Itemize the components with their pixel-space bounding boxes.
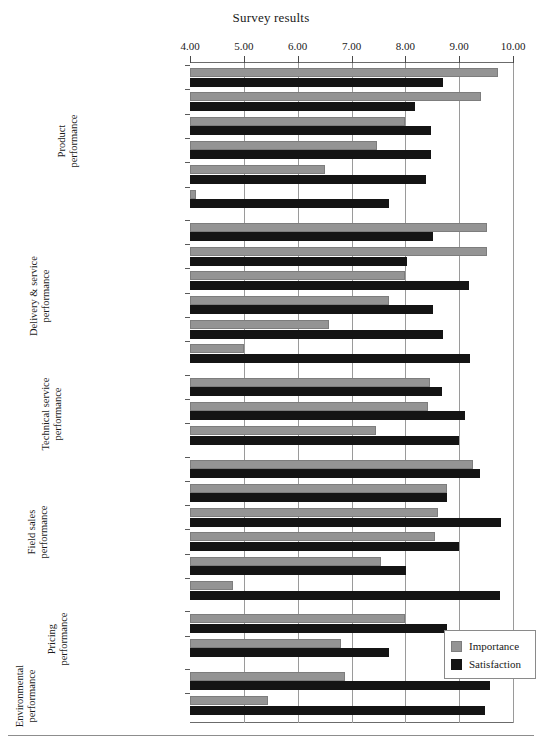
category-tick: [185, 162, 190, 163]
bar-satisfaction: [190, 126, 431, 135]
chart-row: [190, 114, 513, 138]
x-tick-label: 7.00: [342, 40, 361, 52]
bar-importance: [190, 460, 473, 469]
x-tick-mark: [190, 56, 191, 63]
bar-satisfaction: [190, 387, 442, 396]
chart-row: [190, 317, 513, 341]
bar-importance: [190, 696, 268, 705]
bar-importance: [190, 402, 428, 411]
x-tick-label: 5.00: [234, 40, 253, 52]
category-tick: [185, 554, 190, 555]
group-label: Pricing performance: [46, 564, 70, 714]
bar-satisfaction: [190, 330, 443, 339]
x-tick-label: 9.00: [450, 40, 469, 52]
bar-satisfaction: [190, 706, 485, 715]
bar-importance: [190, 639, 341, 648]
bar-importance: [190, 581, 233, 590]
x-tick-label: 4.00: [180, 40, 199, 52]
chart-row: [190, 162, 513, 186]
category-tick: [185, 423, 190, 424]
chart-row: [190, 187, 513, 211]
chart-title: Survey results: [0, 10, 542, 26]
category-tick: [185, 114, 190, 115]
legend-swatch-satisfaction-icon: [451, 659, 462, 670]
bar-satisfaction: [190, 566, 406, 575]
bar-satisfaction: [190, 518, 501, 527]
x-tick-mark: [459, 56, 460, 63]
category-tick: [185, 244, 190, 245]
bar-importance: [190, 165, 325, 174]
bar-satisfaction: [190, 591, 500, 600]
category-tick: [185, 375, 190, 376]
category-tick: [185, 268, 190, 269]
x-tick-mark: [352, 56, 353, 63]
x-tick-mark: [513, 56, 514, 63]
bar-satisfaction: [190, 102, 415, 111]
chart-row: [190, 268, 513, 292]
category-tick: [185, 317, 190, 318]
chart-row: [190, 293, 513, 317]
plot-area: [190, 63, 513, 723]
chart-row: [190, 399, 513, 423]
legend-item-satisfaction: Satisfaction: [451, 658, 529, 670]
bar-importance: [190, 68, 498, 77]
x-tick-mark: [298, 56, 299, 63]
bar-importance: [190, 190, 196, 199]
bar-importance: [190, 223, 487, 232]
chart-row: [190, 244, 513, 268]
bar-importance: [190, 672, 345, 681]
legend-item-importance: Importance: [451, 640, 529, 652]
category-tick: [185, 399, 190, 400]
chart-row: [190, 554, 513, 578]
bar-importance: [190, 344, 244, 353]
bar-satisfaction: [190, 232, 433, 241]
category-tick: [185, 138, 190, 139]
chart-row: [190, 138, 513, 162]
x-tick-label: 8.00: [396, 40, 415, 52]
legend-label-importance: Importance: [469, 640, 519, 652]
bar-satisfaction: [190, 681, 490, 690]
bar-satisfaction: [190, 175, 426, 184]
legend-label-satisfaction: Satisfaction: [469, 658, 521, 670]
bar-satisfaction: [190, 436, 459, 445]
bar-satisfaction: [190, 78, 443, 87]
bar-satisfaction: [190, 493, 447, 502]
category-tick: [185, 220, 190, 221]
category-tick: [185, 529, 190, 530]
x-tick-label: 10.00: [501, 40, 526, 52]
chart-row: [190, 65, 513, 89]
bar-importance: [190, 614, 405, 623]
category-tick: [185, 611, 190, 612]
bar-importance: [190, 532, 435, 541]
x-tick-label: 6.00: [288, 40, 307, 52]
bar-importance: [190, 320, 329, 329]
bar-satisfaction: [190, 150, 431, 159]
x-tick-mark: [405, 56, 406, 63]
group-label: Environmental performance: [14, 621, 38, 742]
chart-row: [190, 423, 513, 447]
bar-importance: [190, 271, 405, 280]
bar-importance: [190, 378, 430, 387]
bar-importance: [190, 92, 481, 101]
bar-satisfaction: [190, 469, 480, 478]
bar-importance: [190, 508, 438, 517]
chart-row: [190, 505, 513, 529]
bar-satisfaction: [190, 411, 465, 420]
category-tick: [185, 293, 190, 294]
category-tick: [185, 505, 190, 506]
page-footer-rule: [8, 735, 534, 736]
bar-satisfaction: [190, 648, 389, 657]
chart-row: [190, 693, 513, 717]
chart-row: [190, 529, 513, 553]
bar-importance: [190, 426, 376, 435]
category-tick: [185, 65, 190, 66]
x-tick-mark: [244, 56, 245, 63]
category-tick: [185, 481, 190, 482]
bar-importance: [190, 117, 405, 126]
bar-satisfaction: [190, 542, 459, 551]
bar-satisfaction: [190, 281, 469, 290]
chart-row: [190, 481, 513, 505]
bar-satisfaction: [190, 257, 407, 266]
bar-importance: [190, 557, 381, 566]
chart-row: [190, 578, 513, 602]
